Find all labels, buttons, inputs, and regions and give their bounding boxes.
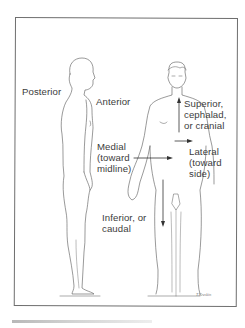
label-superior-line-3: or cranial	[184, 120, 227, 131]
label-medial-line-3: midline)	[97, 163, 131, 174]
label-inferior-line-2: caudal	[102, 223, 146, 234]
label-anterior: Anterior	[96, 96, 130, 107]
caption-fragment	[12, 320, 152, 323]
label-medial-line-2: (toward	[97, 152, 131, 163]
label-medial-line-1: Medial	[97, 141, 131, 152]
label-lateral-line-2: (toward	[189, 157, 222, 168]
label-posterior: Posterior	[22, 86, 61, 97]
label-medial: Medial (toward midline)	[97, 141, 131, 174]
artist-signature: T.Kreskin	[196, 292, 211, 297]
label-inferior-line-1: Inferior, or	[102, 212, 146, 223]
side-view-figure	[60, 58, 100, 296]
label-lateral: Lateral (toward side)	[189, 146, 222, 179]
label-inferior: Inferior, or caudal	[102, 212, 146, 234]
label-lateral-line-3: side)	[189, 168, 222, 179]
label-superior-line-2: cephalad,	[184, 109, 227, 120]
label-lateral-line-1: Lateral	[189, 146, 222, 157]
label-superior: Superior, cephalad, or cranial	[184, 98, 227, 131]
label-superior-line-1: Superior,	[184, 98, 227, 109]
